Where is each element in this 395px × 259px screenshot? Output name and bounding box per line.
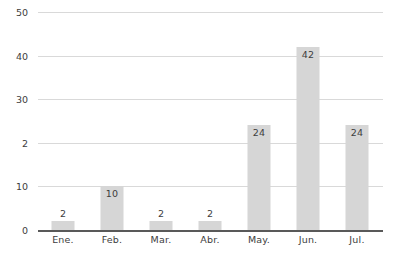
- x-axis-label-jun: Jun.: [286, 234, 330, 245]
- bar-chart: 50 40 30 2 10 0 2 10: [0, 0, 395, 259]
- bar-value-mar: 2: [158, 208, 164, 219]
- y-axis-tick-label: 2: [0, 137, 28, 148]
- bar-slot-feb: 10: [90, 12, 134, 230]
- y-axis-tick-label: 0: [0, 225, 28, 236]
- bar-slot-ene: 2: [41, 12, 85, 230]
- x-axis: Ene. Feb. Mar. Abr. May. Jun. Jul.: [38, 234, 383, 254]
- bar-slot-jul: 24: [335, 12, 379, 230]
- bar-jul[interactable]: [346, 125, 369, 230]
- bar-mar[interactable]: [150, 221, 173, 230]
- bar-value-may: 24: [253, 127, 266, 138]
- x-axis-label-feb: Feb.: [90, 234, 134, 245]
- bar-value-feb: 10: [106, 188, 119, 199]
- x-axis-label-mar: Mar.: [139, 234, 183, 245]
- bar-series: 2 10 2 2 24: [38, 12, 383, 230]
- y-axis-tick-label: 40: [0, 50, 28, 61]
- bar-abr[interactable]: [199, 221, 222, 230]
- x-axis-label-ene: Ene.: [41, 234, 85, 245]
- x-axis-label-may: May.: [237, 234, 281, 245]
- x-axis-label-jul: Jul.: [335, 234, 379, 245]
- y-axis: 50 40 30 2 10 0: [0, 12, 34, 230]
- y-axis-tick-label: 10: [0, 181, 28, 192]
- plot-area: 2 10 2 2 24: [38, 12, 383, 230]
- y-axis-tick-label: 30: [0, 94, 28, 105]
- y-axis-tick-label: 50: [0, 7, 28, 18]
- bar-value-ene: 2: [60, 208, 66, 219]
- bar-slot-mar: 2: [139, 12, 183, 230]
- bar-ene[interactable]: [52, 221, 75, 230]
- x-axis-label-abr: Abr.: [188, 234, 232, 245]
- bar-slot-may: 24: [237, 12, 281, 230]
- bar-slot-abr: 2: [188, 12, 232, 230]
- bar-value-jul: 24: [351, 127, 364, 138]
- bar-value-jun: 42: [302, 49, 315, 60]
- bar-may[interactable]: [248, 125, 271, 230]
- x-axis-baseline: [38, 230, 383, 232]
- bar-jun[interactable]: [297, 47, 320, 230]
- bar-slot-jun: 42: [286, 12, 330, 230]
- bar-value-abr: 2: [207, 208, 213, 219]
